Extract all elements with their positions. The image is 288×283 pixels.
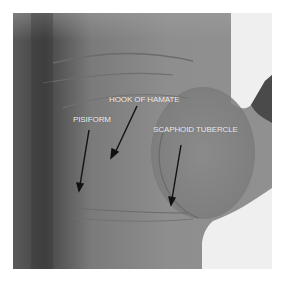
pisiform-label: PISIFORM — [73, 115, 111, 124]
scaphoid-tubercle-label: SCAPHOID TUBERCLE — [153, 125, 238, 134]
palm-illustration — [13, 13, 272, 269]
palm-photo: PISIFORM HOOK OF HAMATE SCAPHOID TUBERCL… — [13, 13, 272, 269]
hook-of-hamate-label: HOOK OF HAMATE — [109, 95, 179, 104]
